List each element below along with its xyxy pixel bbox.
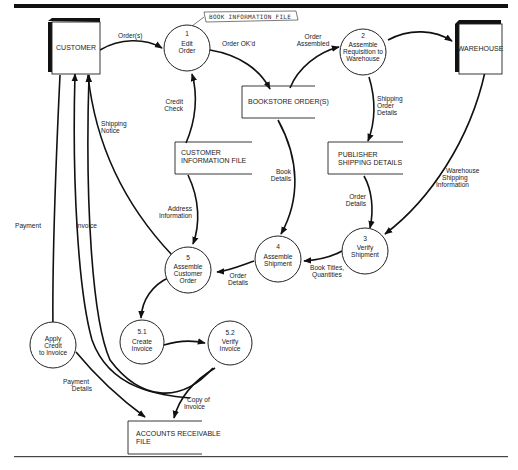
svg-text:Order: Order <box>180 277 198 284</box>
flow-book-titles <box>304 251 342 261</box>
label-order-assembled-1: Order <box>305 33 323 40</box>
label-credit-check-1: Credit <box>165 98 183 105</box>
process-2-assemble-requisition[interactable]: 2 Assemble Requisition to Warehouse <box>340 29 386 75</box>
process-1-edit-order[interactable]: 1 Edit Order <box>164 25 210 71</box>
svg-text:5.1: 5.1 <box>137 328 146 335</box>
label-address-info-2: Information <box>159 212 192 219</box>
store-bookstore-label: BOOKSTORE ORDER(S) <box>248 98 329 106</box>
svg-text:3: 3 <box>363 235 367 242</box>
flow-requisition <box>388 32 452 41</box>
label-order-assembled-2: Assembled <box>297 40 330 47</box>
label-order-details-2a: Order <box>230 272 248 279</box>
svg-text:Order: Order <box>179 47 197 54</box>
handwritten-annotation: BOOK INFORMATION FILE <box>192 11 298 26</box>
process-5-1-create-invoice[interactable]: 5.1 Create Invoice <box>120 320 164 364</box>
label-warehouse-shipping-1: Warehouse <box>446 167 480 174</box>
store-ar-label-2: FILE <box>136 438 151 445</box>
label-order-details-1a: Order <box>349 193 367 200</box>
flow-shipping-order-details <box>368 77 374 141</box>
svg-text:5: 5 <box>186 254 190 261</box>
label-book-titles-2: Quantities <box>312 271 342 279</box>
svg-text:2: 2 <box>361 32 365 39</box>
process-3-verify-shipment[interactable]: 3 Verify Shipment <box>342 228 388 274</box>
entity-warehouse-label: WAREHOUSE <box>458 45 504 52</box>
label-payment-details-2: Details <box>72 385 93 392</box>
label-book-details-1: Book <box>276 168 292 175</box>
flow-order-assembled <box>290 47 339 88</box>
flow-order-details-2 <box>217 261 254 272</box>
svg-text:Shipment: Shipment <box>264 260 292 268</box>
label-order-details-1b: Details <box>346 200 367 207</box>
label-book-details-2: Details <box>271 175 292 182</box>
svg-text:Invoice: Invoice <box>132 345 153 352</box>
svg-text:4: 4 <box>276 243 280 250</box>
flow-order-okd <box>210 50 270 89</box>
store-customer-information-file[interactable]: CUSTOMER INFORMATION FILE <box>175 142 252 174</box>
flow-credit-check <box>186 74 195 143</box>
flow-p51-to-p52 <box>164 341 205 345</box>
label-book-titles-1: Book Titles, <box>310 264 344 271</box>
entity-warehouse[interactable]: WAREHOUSE <box>455 20 504 74</box>
store-pubship-label-1: PUBLISHER <box>338 151 378 158</box>
label-orders: Order(s) <box>118 32 143 40</box>
svg-text:Edit: Edit <box>181 40 193 47</box>
svg-text:to Invoice: to Invoice <box>39 349 68 356</box>
data-flow-diagram: BOOK INFORMATION FILE <box>0 0 518 470</box>
entity-customer-label: CUSTOMER <box>56 44 96 51</box>
store-publisher-shipping-details[interactable]: PUBLISHER SHIPPING DETAILS <box>328 142 403 174</box>
flows <box>53 32 485 418</box>
svg-text:5.2: 5.2 <box>225 329 234 336</box>
svg-text:Credit: Credit <box>44 342 62 349</box>
process-apply-credit-to-invoice[interactable]: Apply Credit to Invoice <box>30 322 76 368</box>
label-address-info-1: Address <box>168 205 193 212</box>
svg-text:BOOK INFORMATION FILE: BOOK INFORMATION FILE <box>209 13 291 20</box>
process-5-2-verify-invoice[interactable]: 5.2 Verify Invoice <box>208 321 252 365</box>
svg-text:Warehouse: Warehouse <box>346 55 380 62</box>
label-warehouse-shipping-3: Information <box>436 181 469 188</box>
store-accounts-receivable-file[interactable]: ACCOUNTS RECEIVABLE FILE <box>128 421 221 454</box>
label-shipping-notice-2: Notice <box>101 127 120 134</box>
bottom-rule <box>14 456 508 457</box>
svg-text:Assemble: Assemble <box>349 41 378 48</box>
label-order-okd: Order OK'd <box>222 40 255 47</box>
label-shipping-order-details-3: Details <box>377 109 398 116</box>
svg-text:Invoice: Invoice <box>220 345 241 352</box>
flow-shipping-notice <box>88 75 172 255</box>
svg-text:Create: Create <box>132 338 152 345</box>
label-invoice: Invoice <box>76 222 97 229</box>
label-copy-of-invoice-2: Invoice <box>184 403 205 410</box>
store-pubship-label-2: SHIPPING DETAILS <box>338 159 402 166</box>
store-bookstore-orders[interactable]: BOOKSTORE ORDER(S) <box>242 86 329 118</box>
process-4-assemble-shipment[interactable]: 4 Assemble Shipment <box>255 236 301 282</box>
svg-text:Customer: Customer <box>174 270 203 277</box>
top-rule <box>14 4 508 8</box>
svg-text:Shipment: Shipment <box>351 251 379 259</box>
entity-customer[interactable]: CUSTOMER <box>48 18 100 74</box>
store-custinfo-label-2: INFORMATION FILE <box>181 157 247 164</box>
store-custinfo-label-1: CUSTOMER <box>181 149 221 156</box>
process-5-assemble-customer-order[interactable]: 5 Assemble Customer Order <box>165 247 211 293</box>
svg-text:Assemble: Assemble <box>264 253 293 260</box>
svg-text:Assemble: Assemble <box>174 263 203 270</box>
flow-payment <box>53 75 60 333</box>
flow-copy-of-invoice <box>174 368 215 418</box>
label-credit-check-2: Check <box>164 105 183 112</box>
label-payment: Payment <box>15 222 41 230</box>
flow-orders <box>100 41 162 50</box>
svg-text:1: 1 <box>185 30 189 37</box>
label-shipping-order-details-2: Order <box>377 102 395 109</box>
label-order-details-2b: Details <box>228 279 249 286</box>
flow-p5-to-p51 <box>141 277 170 318</box>
store-ar-label-1: ACCOUNTS RECEIVABLE <box>136 430 221 437</box>
